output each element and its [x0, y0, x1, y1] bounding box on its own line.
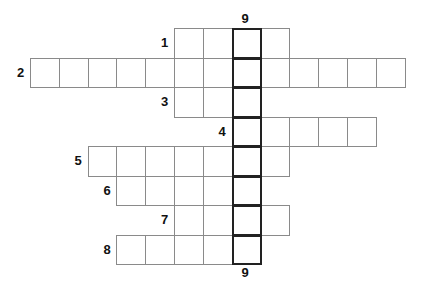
letter-cell[interactable] — [174, 146, 204, 177]
key-cell[interactable] — [232, 235, 262, 266]
key-cell[interactable] — [232, 58, 262, 89]
letter-cell[interactable] — [30, 58, 60, 89]
letter-cell[interactable] — [174, 28, 204, 59]
letter-cell[interactable] — [116, 176, 146, 207]
letter-cell[interactable] — [289, 117, 319, 148]
clue-number: 3 — [161, 95, 168, 108]
letter-cell[interactable] — [376, 58, 406, 89]
letter-cell[interactable] — [145, 146, 175, 177]
letter-cell[interactable] — [145, 176, 175, 207]
key-cell[interactable] — [232, 87, 262, 118]
letter-cell[interactable] — [116, 235, 146, 266]
letter-cell[interactable] — [260, 117, 290, 148]
letter-cell[interactable] — [203, 205, 233, 236]
letter-cell[interactable] — [174, 176, 204, 207]
key-cell[interactable] — [232, 117, 262, 148]
letter-cell[interactable] — [260, 58, 290, 89]
clue-number: 6 — [103, 184, 110, 197]
letter-cell[interactable] — [174, 87, 204, 118]
letter-cell[interactable] — [318, 117, 348, 148]
letter-cell[interactable] — [145, 58, 175, 89]
crossword-grid: 1234567899 — [0, 0, 446, 288]
letter-cell[interactable] — [59, 58, 89, 89]
key-cell[interactable] — [232, 176, 262, 207]
key-cell[interactable] — [232, 146, 262, 177]
letter-cell[interactable] — [145, 235, 175, 266]
letter-cell[interactable] — [174, 58, 204, 89]
letter-cell[interactable] — [203, 58, 233, 89]
letter-cell[interactable] — [203, 176, 233, 207]
letter-cell[interactable] — [203, 235, 233, 266]
key-cell[interactable] — [232, 28, 262, 59]
letter-cell[interactable] — [347, 58, 377, 89]
clue-number: 7 — [161, 213, 168, 226]
letter-cell[interactable] — [203, 87, 233, 118]
letter-cell[interactable] — [116, 58, 146, 89]
letter-cell[interactable] — [174, 235, 204, 266]
letter-cell[interactable] — [260, 205, 290, 236]
clue-number: 2 — [17, 66, 24, 79]
clue-number: 5 — [75, 154, 82, 167]
letter-cell[interactable] — [260, 28, 290, 59]
clue-number: 8 — [103, 243, 110, 256]
key-cell[interactable] — [232, 205, 262, 236]
letter-cell[interactable] — [347, 117, 377, 148]
clue-number: 4 — [219, 125, 226, 138]
letter-cell[interactable] — [174, 205, 204, 236]
key-label-bottom: 9 — [242, 266, 249, 279]
letter-cell[interactable] — [289, 58, 319, 89]
letter-cell[interactable] — [203, 146, 233, 177]
letter-cell[interactable] — [318, 58, 348, 89]
letter-cell[interactable] — [116, 146, 146, 177]
clue-number: 1 — [161, 36, 168, 49]
key-label-top: 9 — [242, 12, 249, 25]
letter-cell[interactable] — [260, 146, 290, 177]
letter-cell[interactable] — [203, 28, 233, 59]
letter-cell[interactable] — [88, 146, 118, 177]
letter-cell[interactable] — [88, 58, 118, 89]
